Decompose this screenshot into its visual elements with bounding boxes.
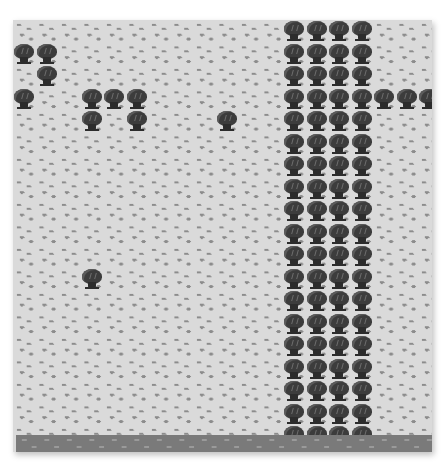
tree-icon [351, 380, 374, 403]
tree-icon [351, 133, 374, 156]
tree-icon [328, 290, 351, 313]
tree-icon [306, 358, 329, 381]
tree-icon [306, 403, 329, 426]
tree-icon [328, 178, 351, 201]
tree-icon [306, 290, 329, 313]
tree-icon [283, 178, 306, 201]
tree-icon [283, 358, 306, 381]
tree-icon [306, 110, 329, 133]
tree-icon [306, 43, 329, 66]
tree-icon [283, 133, 306, 156]
game-map[interactable] [13, 20, 432, 452]
tree-icon [328, 268, 351, 291]
tree-icon [306, 155, 329, 178]
tree-icon [283, 223, 306, 246]
tree-icon [81, 268, 104, 291]
tree-icon [283, 43, 306, 66]
tree-icon [351, 268, 374, 291]
tree-icon [351, 200, 374, 223]
tree-icon [13, 88, 36, 111]
tree-icon [351, 245, 374, 268]
tree-icon [103, 88, 126, 111]
tree-icon [283, 313, 306, 336]
tree-icon [306, 178, 329, 201]
tree-icon [418, 88, 432, 111]
tree-icon [283, 268, 306, 291]
tree-icon [306, 313, 329, 336]
tree-icon [351, 20, 374, 43]
tree-icon [328, 380, 351, 403]
tree-icon [283, 65, 306, 88]
tree-icon [36, 65, 59, 88]
tree-icon [328, 88, 351, 111]
tree-icon [328, 110, 351, 133]
tree-icon [351, 65, 374, 88]
water-strip [16, 435, 432, 452]
tree-icon [81, 110, 104, 133]
tree-icon [328, 65, 351, 88]
tree-icon [328, 20, 351, 43]
tree-icon [351, 403, 374, 426]
tree-icon [283, 245, 306, 268]
tree-icon [351, 155, 374, 178]
tree-icon [306, 335, 329, 358]
tree-icon [81, 88, 104, 111]
tree-icon [306, 65, 329, 88]
tree-icon [306, 245, 329, 268]
tree-icon [328, 43, 351, 66]
tree-icon [351, 335, 374, 358]
tree-icon [216, 110, 239, 133]
tree-icon [328, 245, 351, 268]
tree-icon [283, 20, 306, 43]
tree-icon [328, 133, 351, 156]
tree-icon [306, 133, 329, 156]
tree-icon [328, 335, 351, 358]
tree-icon [351, 43, 374, 66]
tree-icon [13, 43, 36, 66]
tree-icon [351, 313, 374, 336]
tree-icon [283, 155, 306, 178]
tree-icon [351, 223, 374, 246]
tree-icon [283, 110, 306, 133]
tree-icon [283, 380, 306, 403]
tree-icon [328, 403, 351, 426]
tree-icon [351, 88, 374, 111]
tree-icon [373, 88, 396, 111]
tree-icon [283, 290, 306, 313]
tree-icon [351, 290, 374, 313]
tree-icon [306, 200, 329, 223]
tree-icon [328, 358, 351, 381]
tree-icon [306, 20, 329, 43]
tree-icon [351, 110, 374, 133]
tree-icon [328, 223, 351, 246]
tree-icon [328, 200, 351, 223]
tree-icon [306, 268, 329, 291]
tree-icon [351, 358, 374, 381]
tree-icon [36, 43, 59, 66]
tree-icon [283, 88, 306, 111]
tree-icon [306, 223, 329, 246]
tree-icon [283, 335, 306, 358]
tree-icon [306, 380, 329, 403]
tree-icon [328, 313, 351, 336]
tree-icon [306, 88, 329, 111]
tree-icon [126, 110, 149, 133]
tree-icon [351, 178, 374, 201]
tree-icon [283, 200, 306, 223]
tree-icon [126, 88, 149, 111]
tree-icon [283, 403, 306, 426]
tree-icon [396, 88, 419, 111]
tree-icon [328, 155, 351, 178]
